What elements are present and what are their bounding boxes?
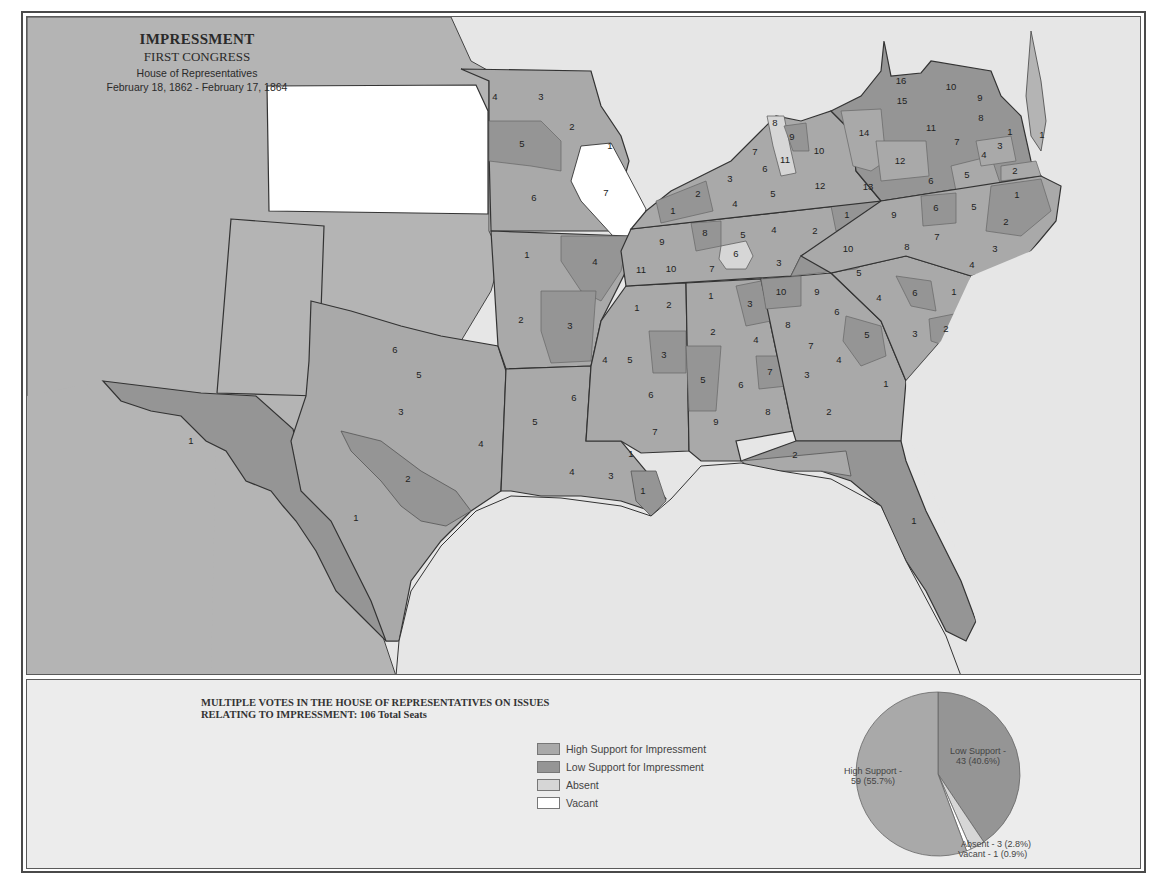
district-label: 2 (943, 323, 948, 334)
district-label: 4 (771, 224, 776, 235)
district-label: 7 (652, 426, 657, 437)
mexico-region (27, 381, 217, 675)
district-label: 11 (926, 122, 936, 133)
low-support-swatch (537, 761, 560, 773)
district-label: 7 (767, 366, 772, 377)
district-label: 8 (978, 112, 983, 123)
district-label: 14 (859, 127, 870, 138)
district-label: 3 (992, 243, 997, 254)
legend-panel: MULTIPLE VOTES IN THE HOUSE OF REPRESENT… (26, 679, 1141, 869)
district-label: 9 (789, 131, 794, 142)
district-label: 1 (1007, 126, 1012, 137)
district-label: 2 (405, 473, 410, 484)
district-label: 6 (648, 389, 653, 400)
chamber-label: House of Representatives (62, 67, 332, 79)
district-label: 11 (780, 154, 790, 165)
district-label: 3 (997, 140, 1002, 151)
pie-label-low-title: Low Support - (950, 746, 1006, 756)
district-label: 3 (538, 91, 543, 102)
district-label: 1 (188, 435, 193, 446)
district-label: 1 (1014, 189, 1019, 200)
mississippi-district-3 (649, 331, 686, 373)
district-label: 6 (933, 202, 938, 213)
district-label: 1 (1039, 129, 1044, 140)
district-label: 4 (753, 334, 758, 345)
pie-label-high: High Support - 59 (55.7%) (844, 766, 902, 786)
district-label: 3 (661, 349, 666, 360)
district-label: 3 (398, 406, 403, 417)
district-label: 5 (416, 369, 421, 380)
district-label: 6 (738, 379, 743, 390)
district-label: 8 (772, 117, 777, 128)
district-label: 3 (776, 257, 781, 268)
district-label: 3 (567, 320, 572, 331)
district-label: 2 (518, 314, 523, 325)
district-label: 16 (896, 75, 907, 86)
district-label: 10 (814, 145, 825, 156)
legend-label: Vacant (566, 797, 598, 809)
legend-title: MULTIPLE VOTES IN THE HOUSE OF REPRESENT… (201, 697, 549, 721)
date-range: February 18, 1862 - February 17, 1864 (62, 81, 332, 93)
district-label: 2 (666, 299, 671, 310)
district-label: 8 (702, 227, 707, 238)
pie-label-low: Low Support - 43 (40.6%) (950, 746, 1006, 766)
map-panel: 4321567142312345678910111291011875643211… (26, 16, 1141, 675)
district-label: 2 (826, 406, 831, 417)
district-label: 15 (897, 95, 908, 106)
district-label: 1 (634, 302, 639, 313)
district-label: 7 (934, 231, 939, 242)
district-label: 5 (856, 267, 861, 278)
district-label: 6 (571, 392, 576, 403)
congress-subtitle: FIRST CONGRESS (62, 49, 332, 65)
district-label: 5 (532, 416, 537, 427)
pie-label-high-title: High Support - (844, 766, 902, 776)
district-label: 8 (904, 241, 909, 252)
district-label: 1 (524, 249, 529, 260)
district-label: 9 (659, 236, 664, 247)
district-label: 6 (912, 287, 917, 298)
district-label: 4 (569, 466, 574, 477)
district-label: 9 (977, 92, 982, 103)
district-label: 1 (607, 140, 612, 151)
district-label: 10 (946, 81, 957, 92)
district-label: 4 (969, 259, 974, 270)
pie-label-vacant: Vacant - 1 (0.9%) (958, 849, 1027, 859)
district-label: 3 (804, 369, 809, 380)
district-label: 5 (864, 329, 869, 340)
pie-label-high-value: 59 (55.7%) (844, 776, 902, 786)
legend-label: Absent (566, 779, 599, 791)
district-label: 3 (608, 470, 613, 481)
district-label: 3 (912, 328, 917, 339)
vacant-swatch (537, 797, 560, 809)
district-label: 7 (752, 146, 757, 157)
district-label: 1 (911, 515, 916, 526)
district-label: 4 (836, 354, 841, 365)
legend-title-line-2: RELATING TO IMPRESSMENT: 106 Total Seats (201, 709, 549, 721)
district-label: 10 (776, 286, 787, 297)
district-label: 5 (770, 188, 775, 199)
district-label: 7 (603, 187, 608, 198)
district-label: 5 (627, 354, 632, 365)
district-label: 7 (954, 136, 959, 147)
district-label: 1 (353, 512, 358, 523)
district-label: 6 (392, 344, 397, 355)
legend-label: High Support for Impressment (566, 743, 706, 755)
district-label: 4 (876, 292, 881, 303)
district-label: 7 (709, 263, 714, 274)
district-label: 3 (727, 173, 732, 184)
district-label: 6 (762, 163, 767, 174)
legend-item-absent: Absent (537, 776, 706, 794)
district-label: 1 (844, 209, 849, 220)
district-label: 4 (602, 354, 607, 365)
district-label: 5 (964, 169, 969, 180)
legend-items: High Support for Impressment Low Support… (537, 740, 706, 812)
absent-swatch (537, 779, 560, 791)
district-label: 5 (971, 201, 976, 212)
district-label: 2 (1012, 165, 1017, 176)
district-label: 4 (732, 198, 737, 209)
district-label: 6 (733, 248, 738, 259)
district-label: 6 (928, 175, 933, 186)
district-label: 2 (792, 449, 797, 460)
district-label: 5 (740, 229, 745, 240)
district-label: 10 (666, 263, 677, 274)
